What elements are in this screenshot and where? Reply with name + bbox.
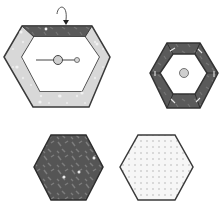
center-knob	[180, 69, 189, 78]
large-hex-top-band	[22, 26, 92, 37]
small-dark-frame-hexagon	[150, 43, 218, 108]
curved-arrow-icon	[57, 7, 69, 25]
diagram-canvas	[0, 0, 223, 212]
dark-textured-hexagon	[34, 135, 103, 200]
large-frame-hexagon	[4, 7, 110, 107]
dotted-hexagon	[120, 135, 193, 200]
